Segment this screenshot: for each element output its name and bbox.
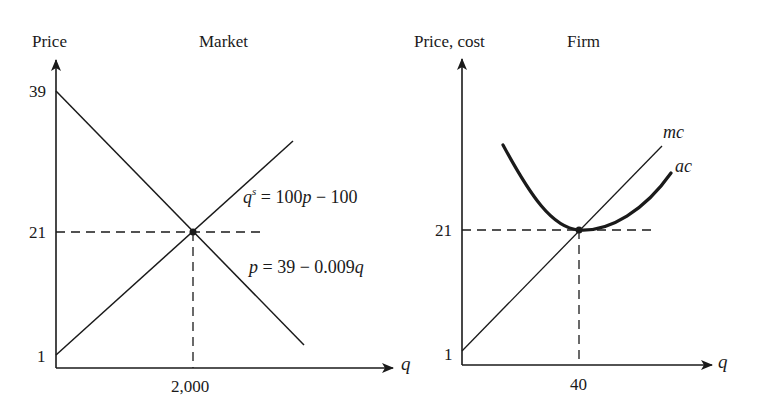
average-cost-curve <box>503 145 671 230</box>
demand-curve <box>56 91 304 345</box>
market-y-axis-label: Price <box>32 33 67 50</box>
mc-curve-label: mc <box>663 123 684 141</box>
market-x-tick-2000: 2,000 <box>171 378 209 395</box>
demand-eq-p: p <box>249 257 258 277</box>
firm-y-tick-21: 21 <box>435 222 452 239</box>
ac-curve-label: ac <box>675 157 692 175</box>
supply-eq-tail: − 100 <box>311 187 357 207</box>
marginal-cost-curve <box>462 146 662 351</box>
market-x-axis-label: q <box>401 354 411 373</box>
firm-y-tick-1: 1 <box>444 346 453 363</box>
supply-curve <box>56 141 293 355</box>
firm-equilibrium-point <box>576 227 583 234</box>
market-y-tick-1: 1 <box>37 348 46 365</box>
demand-equation-label: p = 39 − 0.009q <box>249 258 364 276</box>
firm-y-axis-label: Price, cost <box>414 33 485 50</box>
firm-x-tick-40: 40 <box>570 376 587 393</box>
market-y-tick-39: 39 <box>29 83 46 100</box>
firm-panel <box>462 59 712 365</box>
supply-equation-label: qs = 100p − 100 <box>243 188 358 206</box>
market-y-tick-21: 21 <box>29 224 46 241</box>
market-equilibrium-point <box>190 229 197 236</box>
supply-eq-q: q <box>243 187 252 207</box>
market-title: Market <box>199 33 248 50</box>
demand-eq-q: q <box>355 257 364 277</box>
supply-eq-rest: = 100 <box>256 187 302 207</box>
firm-title: Firm <box>567 33 600 50</box>
demand-eq-mid: = 39 − 0.009 <box>258 257 355 277</box>
economics-diagram <box>0 0 758 408</box>
supply-eq-superscript: s <box>252 185 256 197</box>
market-panel <box>56 60 393 368</box>
firm-x-axis-label: q <box>718 352 728 371</box>
